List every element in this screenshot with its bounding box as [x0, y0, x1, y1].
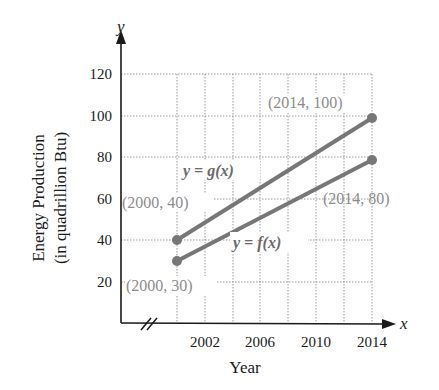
x-tick-labels: 2002 2006 2010 2014 [190, 334, 388, 350]
annotation-2000-40: (2000, 40) [122, 194, 189, 212]
annotation-2000-30: (2000, 30) [126, 277, 193, 295]
svg-text:2010: 2010 [301, 334, 331, 350]
y-axis-symbol: y [115, 17, 125, 36]
svg-text:2014: 2014 [357, 334, 388, 350]
svg-text:40: 40 [97, 232, 112, 248]
svg-text:20: 20 [97, 274, 112, 290]
x-axis-label: Year [229, 358, 261, 377]
series-g-label: y = g(x) [181, 162, 234, 180]
point-f-2014 [367, 155, 377, 165]
svg-text:60: 60 [97, 191, 112, 207]
annotation-2014-80: (2014, 80) [323, 190, 390, 208]
line-chart: y x 120 100 80 60 40 20 2002 2006 2010 2… [0, 0, 439, 390]
series-f-label: y = f(x) [231, 234, 281, 252]
point-g-2014 [367, 113, 377, 123]
svg-text:(in quadrillion Btu): (in quadrillion Btu) [51, 132, 70, 264]
axis-break-icon [141, 318, 157, 330]
svg-text:2002: 2002 [190, 334, 220, 350]
point-g-2000 [172, 235, 182, 245]
point-f-2000 [172, 256, 182, 266]
svg-text:100: 100 [90, 108, 113, 124]
svg-text:120: 120 [90, 66, 113, 82]
x-axis-arrow-icon [382, 319, 396, 329]
svg-text:Energy Production: Energy Production [29, 134, 48, 262]
annotation-2014-100: (2014, 100) [268, 94, 343, 112]
y-axis-label: Energy Production (in quadrillion Btu) [29, 132, 70, 264]
x-axis-symbol: x [399, 314, 408, 333]
y-tick-labels: 120 100 80 60 40 20 [90, 66, 113, 290]
x-axis [121, 323, 384, 324]
svg-text:80: 80 [97, 149, 112, 165]
svg-text:2006: 2006 [245, 334, 276, 350]
